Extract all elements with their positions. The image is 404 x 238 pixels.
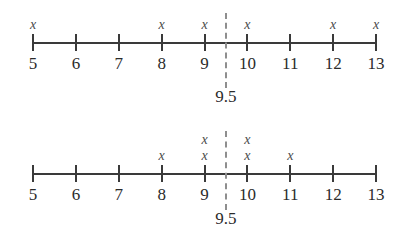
data-mark-x: x (23, 18, 43, 32)
axis-tick (75, 34, 77, 51)
axis-tick-label: 5 (13, 55, 53, 72)
top-threshold-line (225, 13, 227, 88)
axis-tick-label: 11 (270, 186, 310, 203)
axis-tick-label: 12 (313, 55, 353, 72)
data-mark-x: x (195, 18, 215, 32)
axis-tick-label: 7 (99, 55, 139, 72)
bottom-dot-plot: 5678910111213 xxxxxx 9.5 (0, 119, 404, 238)
axis-tick-label: 9 (185, 55, 225, 72)
data-mark-x: x (323, 18, 343, 32)
axis-tick-label: 9 (185, 186, 225, 203)
axis-tick-label: 13 (356, 55, 396, 72)
axis-tick (289, 34, 291, 51)
axis-tick-label: 7 (99, 186, 139, 203)
axis-tick (32, 34, 34, 51)
axis-tick (246, 165, 248, 182)
bottom-threshold-label: 9.5 (196, 210, 256, 227)
axis-tick-label: 8 (142, 55, 182, 72)
data-mark-x: x (195, 149, 215, 163)
data-mark-x: x (195, 133, 215, 147)
axis-tick-label: 10 (227, 186, 267, 203)
data-mark-x: x (152, 18, 172, 32)
data-mark-x: x (237, 149, 257, 163)
axis-tick-label: 6 (56, 186, 96, 203)
top-dot-plot: 5678910111213 xxxxxx 9.5 (0, 0, 404, 119)
axis-tick (332, 34, 334, 51)
axis-tick (161, 165, 163, 182)
axis-tick-label: 12 (313, 186, 353, 203)
top-threshold-label: 9.5 (196, 88, 256, 105)
axis-tick-label: 10 (227, 55, 267, 72)
data-mark-x: x (237, 133, 257, 147)
axis-tick (32, 165, 34, 182)
axis-tick (161, 34, 163, 51)
axis-tick (118, 34, 120, 51)
axis-tick-label: 11 (270, 55, 310, 72)
axis-tick (75, 165, 77, 182)
axis-tick (375, 165, 377, 182)
axis-tick (118, 165, 120, 182)
axis-tick (204, 165, 206, 182)
axis-tick (332, 165, 334, 182)
data-mark-x: x (366, 18, 386, 32)
axis-tick (246, 34, 248, 51)
axis-tick-label: 5 (13, 186, 53, 203)
axis-tick-label: 8 (142, 186, 182, 203)
axis-tick (289, 165, 291, 182)
data-mark-x: x (237, 18, 257, 32)
axis-tick-label: 6 (56, 55, 96, 72)
bottom-threshold-line (225, 131, 227, 210)
data-mark-x: x (280, 149, 300, 163)
data-mark-x: x (152, 149, 172, 163)
axis-tick-label: 13 (356, 186, 396, 203)
axis-tick (204, 34, 206, 51)
axis-tick (375, 34, 377, 51)
